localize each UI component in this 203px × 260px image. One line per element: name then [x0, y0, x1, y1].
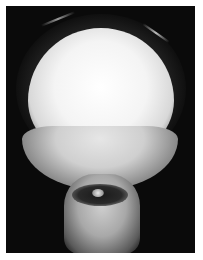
xray-image	[6, 6, 195, 253]
cavity-highlight	[92, 189, 104, 197]
